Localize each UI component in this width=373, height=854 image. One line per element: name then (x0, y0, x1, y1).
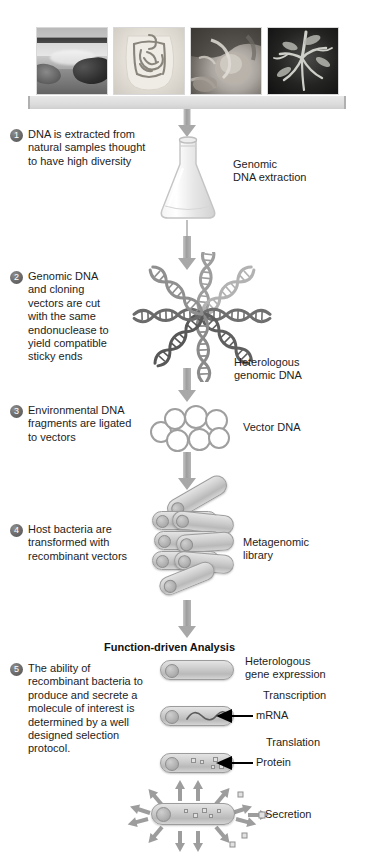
arrow-dna-to-vectors (178, 368, 196, 402)
label-heterologous-genomic-dna: Heterologousgenomic DNA (234, 356, 302, 383)
function-driven-analysis-heading: Function-driven Analysis (104, 641, 235, 653)
plasmid-circle (164, 408, 186, 430)
label-genomic-dna-extraction: GenomicDNA extraction (233, 158, 306, 185)
step-3: 3 Environmental DNA fragments are ligate… (10, 404, 140, 444)
vector-dna-plasmids (148, 403, 253, 458)
arrow-vectors-to-bacteria (178, 452, 196, 490)
bacterium-gene-expression (160, 660, 234, 680)
label-secretion: Secretion (265, 808, 311, 821)
step-4: 4 Host bacteria are transformed with rec… (10, 523, 145, 563)
metagenomic-library-bacteria-stack (146, 487, 256, 597)
photo-organ-image (191, 28, 261, 94)
sample-photo-shoreline (36, 27, 108, 95)
sample-photo-organ (190, 27, 262, 95)
label-vector-dna: Vector DNA (243, 421, 300, 434)
plant-roots-illustration (268, 28, 338, 94)
step-2-badge: 2 (10, 271, 23, 284)
protein-molecule-icon (217, 809, 221, 813)
step-5-text: The ability of recombinant bacteria to p… (28, 662, 150, 756)
step-5: 5 The ability of recombinant bacteria to… (10, 662, 150, 756)
erlenmeyer-flask (152, 134, 224, 226)
step-1-text: DNA is extracted from natural samples th… (28, 128, 150, 168)
label-metagenomic-library: Metagenomiclibrary (243, 536, 309, 563)
step-4-badge: 4 (10, 524, 23, 537)
step-5-badge: 5 (10, 663, 23, 676)
plasmid-circle (166, 429, 189, 452)
figure-canvas: 1 DNA is extracted from natural samples … (0, 0, 373, 854)
label-mrna: mRNA (256, 709, 288, 722)
label-translation: Translation (266, 736, 320, 749)
protein-molecule-icon (191, 758, 196, 763)
photo-plant-roots-image (268, 28, 338, 94)
label-heterologous-gene-expression: Heterologousgene expression (245, 655, 326, 682)
sample-bracket (28, 96, 346, 109)
sample-photo-intestines (113, 27, 185, 95)
organ-illustration (191, 28, 261, 94)
arrow-bracket-to-flask (178, 109, 196, 137)
protein-molecule-icon (209, 814, 213, 818)
sample-photo-plant-roots (267, 27, 339, 95)
protein-molecule-icon (200, 760, 204, 764)
step-1-badge: 1 (10, 129, 23, 142)
mrna-pointer-arrow (212, 709, 254, 723)
step-4-text: Host bacteria are transformed with recom… (28, 523, 145, 563)
plasmid-circle (208, 427, 230, 449)
arrow-library-to-analysis (178, 600, 196, 638)
protein-molecule-icon (202, 808, 207, 813)
protein-molecule-icon (193, 813, 198, 818)
step-2-text: Genomic DNA and cloning vectors are cut … (28, 270, 110, 364)
label-protein: Protein (256, 756, 291, 769)
photo-intestines-image (114, 28, 184, 94)
bacterium-secreting (151, 803, 235, 825)
flask-illustration (152, 134, 224, 222)
step-3-badge: 3 (10, 405, 23, 418)
step-1: 1 DNA is extracted from natural samples … (10, 128, 150, 168)
label-transcription: Transcription (263, 689, 326, 702)
protein-pointer-arrow (212, 756, 254, 770)
step-2: 2 Genomic DNA and cloning vectors are cu… (10, 270, 110, 364)
intestines-illustration (114, 28, 184, 94)
photo-shoreline-image (37, 28, 107, 94)
step-3-text: Environmental DNA fragments are ligated … (28, 404, 140, 444)
protein-molecule-icon (184, 809, 188, 813)
